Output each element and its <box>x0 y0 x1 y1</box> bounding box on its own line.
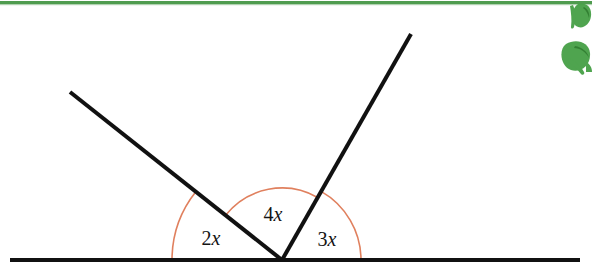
angle-label-3x: 3x <box>318 228 337 250</box>
diagram-page: 2x 4x 3x <box>0 0 592 276</box>
geometry-figure: 2x 4x 3x <box>0 0 592 276</box>
green-divider-line <box>0 1 592 5</box>
angle-label-2x: 2x <box>202 227 221 249</box>
angle-label-4x: 4x <box>264 203 283 225</box>
